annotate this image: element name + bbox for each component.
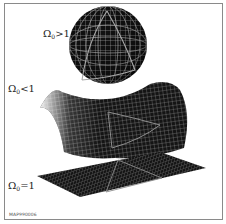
saddle-surface <box>40 82 187 158</box>
label-open: Ω0<1 <box>8 84 35 95</box>
sphere-surface <box>69 6 147 84</box>
figure-code: MAP990006 <box>9 212 37 217</box>
label-closed: Ω0>1 <box>43 29 70 40</box>
label-flat: Ω0=1 <box>8 181 35 192</box>
plane-surface <box>37 152 206 197</box>
